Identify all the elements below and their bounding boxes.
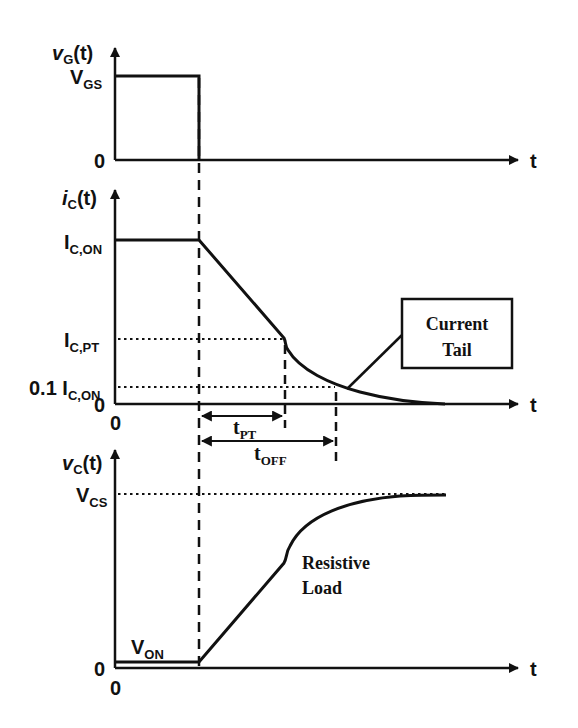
- collector-current-plot: tPT tOFF CurrentTail iC(t) IC,ON IC,PT 0…: [29, 187, 537, 468]
- x-axis-label: t: [530, 150, 537, 172]
- vcs-level-label: VCS: [76, 484, 108, 510]
- x-axis-label: t: [530, 394, 537, 416]
- origin-label: 0: [110, 677, 121, 699]
- tpt-label: tPT: [233, 416, 257, 442]
- ic-on-level-label: IC,ON: [64, 231, 102, 257]
- y-axis-label: iC(t): [62, 187, 97, 212]
- vgs-level-label: VGS: [70, 66, 102, 92]
- collector-current-waveform: [115, 240, 445, 404]
- toff-label: tOFF: [254, 442, 287, 468]
- current-tail-leader-line: [347, 335, 402, 389]
- zero-label: 0: [94, 658, 105, 680]
- zero-label: 0: [94, 394, 105, 416]
- igbt-turnoff-diagram: vG(t) VGS 0 t tPT tOFF CurrentTail: [0, 0, 578, 728]
- collector-voltage-plot: ResistiveLoad vC(t) VCS VON 0 0 t: [62, 450, 537, 699]
- zero-label: 0: [94, 150, 105, 172]
- y-axis-label: vG(t): [52, 42, 93, 67]
- x-axis-label: t: [530, 658, 537, 680]
- ic-10pct-level-label: 0.1 IC,ON: [29, 377, 100, 403]
- origin-label: 0: [110, 412, 121, 434]
- y-axis-label: vC(t): [62, 452, 103, 477]
- ic-pt-level-label: IC,PT: [64, 329, 99, 355]
- von-level-label: VON: [131, 636, 164, 662]
- collector-voltage-waveform: [115, 495, 446, 662]
- gate-voltage-plot: vG(t) VGS 0 t: [52, 42, 537, 172]
- resistive-load-label: ResistiveLoad: [302, 553, 370, 598]
- gate-voltage-waveform: [115, 76, 199, 160]
